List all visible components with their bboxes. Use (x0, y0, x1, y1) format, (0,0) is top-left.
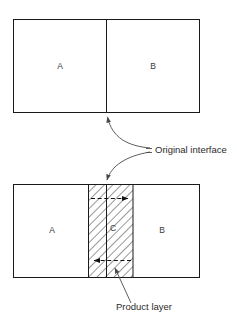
bottom-region-label-c: C (110, 223, 116, 233)
bottom-region-label-a: A (49, 225, 55, 235)
diagram-root: A B Original interface A C (0, 0, 237, 326)
original-interface-leader-lower (107, 152, 150, 180)
top-region-label-a: A (57, 61, 63, 71)
top-panel: A B (14, 20, 200, 113)
bottom-region-label-b: B (159, 225, 165, 235)
original-interface-label: Original interface (155, 144, 227, 155)
original-interface-callout: Original interface (107, 117, 227, 180)
product-layer-label: Product layer (116, 301, 172, 312)
bottom-panel: A C B (14, 185, 200, 278)
original-interface-leader-upper (108, 117, 151, 148)
top-region-label-b: B (150, 61, 156, 71)
reaction-couple-diagram: A B Original interface A C (0, 0, 237, 326)
